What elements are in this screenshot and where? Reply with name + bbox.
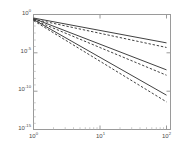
y-tick-label-1: 10-5 [4, 48, 31, 54]
plot-frame [34, 15, 171, 130]
y-tick-label-2: 10-10 [2, 86, 31, 92]
y-tick-label-0: 100 [6, 10, 31, 16]
x-tick-label-2: 102 [156, 133, 177, 139]
x-tick-label-1: 101 [90, 133, 111, 139]
loglog-convergence-chart: 100 10-5 10-10 10-15 100 101 102 [0, 0, 182, 150]
x-tick-label-0: 100 [23, 133, 44, 139]
y-tick-label-3: 10-15 [2, 125, 31, 131]
